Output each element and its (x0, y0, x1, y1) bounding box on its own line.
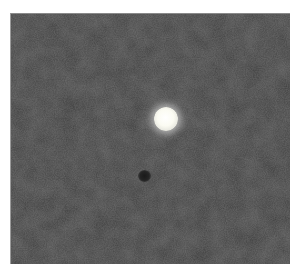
noise-texture (11, 14, 290, 264)
image-field (10, 13, 290, 264)
dark-spot (138, 170, 151, 182)
bright-spot (154, 107, 178, 131)
